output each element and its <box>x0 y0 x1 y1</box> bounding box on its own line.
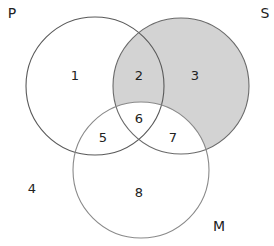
region-label-1: 1 <box>71 68 79 83</box>
region-label-7: 7 <box>169 130 177 145</box>
venn-diagram: P S M 1 2 3 4 5 6 7 8 <box>0 0 274 246</box>
region-label-6: 6 <box>135 111 143 126</box>
set-label-p: P <box>8 5 16 21</box>
shaded-region-s-minus-m <box>113 18 249 154</box>
region-label-5: 5 <box>99 130 107 145</box>
set-label-m: M <box>213 218 225 234</box>
shaded-fill <box>113 18 249 154</box>
region-label-8: 8 <box>135 185 143 200</box>
region-label-2: 2 <box>135 68 143 83</box>
set-label-s: S <box>261 5 270 21</box>
region-label-3: 3 <box>191 68 199 83</box>
region-label-4: 4 <box>28 181 36 196</box>
